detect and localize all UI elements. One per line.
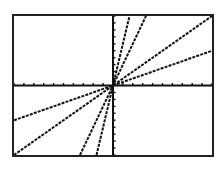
calculator-graph-screen: line (12, 14, 214, 157)
graph-plot (14, 16, 212, 155)
